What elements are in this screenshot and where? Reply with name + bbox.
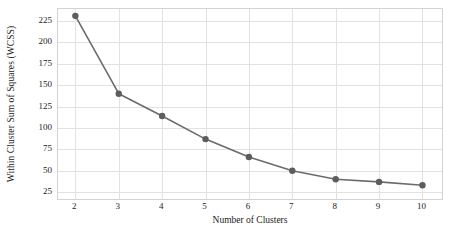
y-tick-label: 75 — [43, 143, 52, 153]
y-tick-label: 50 — [43, 165, 52, 175]
x-tick-label: 5 — [202, 201, 207, 211]
y-tick-label: 100 — [39, 122, 53, 132]
x-tick-label: 7 — [289, 201, 294, 211]
y-axis-tick-labels: 255075100125150175200225 — [22, 0, 56, 208]
x-tick-label: 10 — [417, 201, 426, 211]
data-point-marker — [72, 13, 78, 19]
x-tick-label: 8 — [332, 201, 337, 211]
data-point-marker — [376, 179, 382, 185]
x-axis-title: Number of Clusters — [57, 215, 443, 225]
x-tick-label: 4 — [159, 201, 164, 211]
y-tick-label: 225 — [39, 15, 53, 25]
x-tick-label: 6 — [246, 201, 251, 211]
data-point-marker — [202, 136, 208, 142]
y-tick-label: 25 — [43, 186, 52, 196]
x-tick-label: 2 — [72, 201, 77, 211]
y-tick-label: 150 — [39, 79, 53, 89]
x-tick-label: 3 — [115, 201, 120, 211]
data-point-marker — [246, 154, 252, 160]
data-point-marker — [289, 168, 295, 174]
y-axis-title-label: Within Cluster Sum of Squares (WCSS) — [6, 26, 16, 183]
y-tick-label: 200 — [39, 36, 53, 46]
y-tick-label: 175 — [39, 58, 53, 68]
y-axis-title: Within Cluster Sum of Squares (WCSS) — [0, 0, 22, 208]
data-point-marker — [116, 91, 122, 97]
plot-area — [57, 8, 443, 200]
data-series-layer — [58, 9, 442, 199]
data-point-marker — [419, 182, 425, 188]
elbow-method-chart: Within Cluster Sum of Squares (WCSS) 255… — [0, 0, 461, 236]
y-tick-label: 125 — [39, 101, 53, 111]
data-point-marker — [159, 113, 165, 119]
data-point-marker — [332, 176, 338, 182]
x-tick-label: 9 — [376, 201, 381, 211]
line-series-svg — [58, 9, 442, 199]
